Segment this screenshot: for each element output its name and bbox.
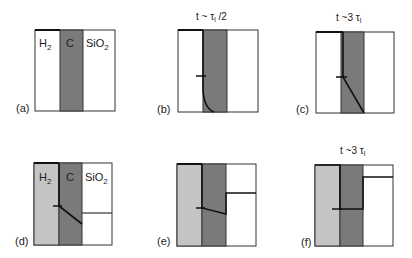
panel-label-b: (b) xyxy=(157,103,170,115)
panel-label-f: (f) xyxy=(301,236,311,248)
panel-title-c: t ~3 τl xyxy=(336,12,362,24)
region-label-c: C xyxy=(66,37,74,49)
carbon-layer xyxy=(203,30,227,112)
panel-title-f: t ~3 τl xyxy=(340,145,366,157)
panel-a: H2 C SiO2 (a) xyxy=(16,30,115,114)
diagram-canvas: H2 C SiO2 (a) t ~ τl /2 (b) t ~3 τl (c) … xyxy=(0,0,412,258)
panel-label-e: (e) xyxy=(157,235,170,247)
region-label-c: C xyxy=(66,171,74,183)
panel-title-b: t ~ τl /2 xyxy=(196,11,227,23)
panel-e: (e) xyxy=(157,164,256,247)
panel-c: t ~3 τl (c) xyxy=(296,12,394,115)
panel-label-c: (c) xyxy=(296,103,309,115)
panel-label-a: (a) xyxy=(16,102,29,114)
hydrogen-region xyxy=(315,165,340,246)
carbon-layer xyxy=(341,32,364,113)
panel-f: t ~3 τl (f) xyxy=(301,145,393,248)
carbon-layer xyxy=(340,165,363,246)
hydrogen-region xyxy=(177,164,202,246)
panel-b: t ~ τl /2 (b) xyxy=(157,11,258,115)
carbon-layer xyxy=(202,164,226,246)
panel-label-d: (d) xyxy=(15,235,28,247)
panel-d: H2 C SiO2 (d) xyxy=(15,163,112,247)
